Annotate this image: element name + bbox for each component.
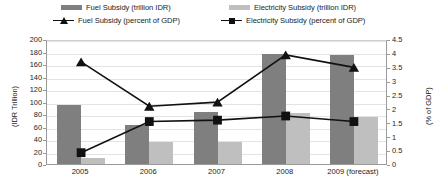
data-point-square-icon bbox=[77, 148, 86, 157]
legend-label-fuel-subsidy-trillion: Fuel Subsidy (trillion IDR) bbox=[86, 3, 171, 12]
y-axis-right-tick: 3.5 bbox=[392, 64, 418, 71]
y-axis-left-tickmark bbox=[43, 165, 46, 166]
y-axis-right-tick: 2 bbox=[392, 106, 418, 113]
data-point-triangle-icon bbox=[76, 57, 86, 66]
legend-item-electricity-subsidy-percent: Electricity Subsidy (percent of GDP) bbox=[221, 16, 365, 25]
x-axis-tick-label: 2007 bbox=[182, 168, 250, 176]
plot-area bbox=[46, 40, 387, 165]
y-axis-left-tick: 60 bbox=[16, 124, 42, 131]
y-axis-left-tick: 160 bbox=[16, 61, 42, 68]
x-axis-tick-label: 2006 bbox=[114, 168, 182, 176]
legend-label-electricity-subsidy-percent: Electricity Subsidy (percent of GDP) bbox=[246, 16, 365, 25]
y-axis-right-tick: 3 bbox=[392, 78, 418, 85]
y-axis-left-tick: 120 bbox=[16, 86, 42, 93]
y-axis-right-tick: 0 bbox=[392, 161, 418, 168]
y-axis-left-tick: 100 bbox=[16, 99, 42, 106]
data-point-square-icon bbox=[350, 117, 359, 126]
legend-swatch-fuel-bar-icon bbox=[61, 3, 82, 12]
y-axis-left-tick: 140 bbox=[16, 74, 42, 81]
data-point-square-icon bbox=[281, 112, 290, 121]
legend-marker-square-icon bbox=[221, 16, 242, 25]
line-series-overlay bbox=[47, 41, 388, 166]
legend-label-fuel-subsidy-percent: Fuel Subsidy (percent of GDP) bbox=[78, 16, 180, 25]
y-axis-left-tick: 200 bbox=[16, 36, 42, 43]
y-axis-right-tick: 4 bbox=[392, 50, 418, 57]
legend-swatch-electricity-bar-icon bbox=[229, 3, 250, 12]
legend-item-electricity-subsidy-trillion: Electricity Subsidy (trillion IDR) bbox=[229, 3, 356, 12]
legend-marker-triangle-icon bbox=[53, 16, 74, 25]
data-point-square-icon bbox=[213, 116, 222, 125]
y-axis-left-tick: 40 bbox=[16, 136, 42, 143]
legend-label-electricity-subsidy-trillion: Electricity Subsidy (trillion IDR) bbox=[254, 3, 356, 12]
legend-item-fuel-subsidy-trillion: Fuel Subsidy (trillion IDR) bbox=[61, 3, 171, 12]
y-axis-left-tick: 180 bbox=[16, 49, 42, 56]
x-axis-tick-label: 2009 (forecast) bbox=[319, 168, 387, 176]
x-axis-tick-label: 2008 bbox=[251, 168, 319, 176]
y-axis-right-tick: 0.5 bbox=[392, 147, 418, 154]
y-axis-right-tick: 4.5 bbox=[392, 36, 418, 43]
y-axis-right-title: (% of GDP) bbox=[424, 87, 433, 125]
y-axis-left-tick: 20 bbox=[16, 149, 42, 156]
y-axis-right-tick: 2.5 bbox=[392, 92, 418, 99]
y-axis-right-tick: 1 bbox=[392, 134, 418, 141]
chart-area: (IDR Trillion) (% of GDP) 20018016014012… bbox=[0, 31, 434, 181]
y-axis-left-tick: 0 bbox=[16, 161, 42, 168]
y-axis-left-tick: 80 bbox=[16, 111, 42, 118]
x-axis-tick-label: 2005 bbox=[46, 168, 114, 176]
y-axis-right-tick: 1.5 bbox=[392, 120, 418, 127]
legend-item-fuel-subsidy-percent: Fuel Subsidy (percent of GDP) bbox=[53, 16, 180, 25]
chart-legend: Fuel Subsidy (trillion IDR) Electricity … bbox=[0, 1, 434, 31]
data-point-square-icon bbox=[145, 117, 154, 126]
